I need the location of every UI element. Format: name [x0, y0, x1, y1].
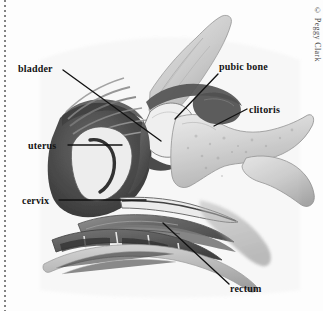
label-clitoris: clitoris — [249, 104, 280, 115]
label-uterus: uterus — [28, 140, 56, 151]
anatomy-illustration: bladder uterus cervix pubic bone clitori… — [0, 0, 323, 311]
label-bladder: bladder — [18, 63, 53, 74]
paper-tone — [40, 38, 300, 298]
anatomy-figure: bladder uterus cervix pubic bone clitori… — [0, 0, 323, 311]
label-rectum: rectum — [230, 283, 262, 294]
label-pubic-bone: pubic bone — [219, 61, 268, 72]
page-edge-dotted-rule — [4, 0, 6, 311]
label-cervix: cervix — [22, 195, 49, 206]
copyright-credit: © Peggy Clark — [313, 6, 322, 62]
